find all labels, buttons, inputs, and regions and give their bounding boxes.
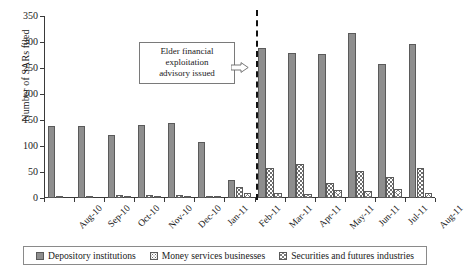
y-tick-label: 300	[10, 37, 38, 47]
x-tick-mark	[134, 198, 135, 202]
x-tick-label: Apr-11	[317, 203, 343, 229]
annotation-line-2: exploitation	[142, 57, 232, 68]
bar	[78, 126, 85, 198]
dotted-swatch	[150, 252, 158, 260]
x-tick-label: Nov-10	[167, 203, 195, 231]
bar	[409, 44, 416, 198]
x-tick-mark	[104, 198, 105, 202]
bar-group	[74, 16, 104, 198]
bar-group	[375, 16, 405, 198]
bar	[168, 123, 175, 198]
bar-group	[255, 16, 285, 198]
bar-group	[285, 16, 315, 198]
bar	[184, 196, 191, 198]
x-tick-mark	[194, 198, 195, 202]
bar	[378, 64, 385, 198]
bar	[326, 183, 333, 198]
annotation-arrow-icon	[231, 62, 249, 73]
legend-item[interactable]: Money services businesses	[150, 250, 265, 261]
bar	[296, 164, 303, 198]
legend-item[interactable]: Depository institutions	[36, 250, 136, 261]
bar	[236, 187, 243, 198]
bar	[206, 196, 213, 198]
bar	[176, 195, 183, 198]
bar-group	[405, 16, 435, 198]
bar-group	[44, 16, 74, 198]
bar	[124, 196, 131, 198]
y-tick-label: 50	[10, 167, 38, 177]
legend-item[interactable]: Securities and futures industries	[279, 250, 414, 261]
bar	[48, 126, 55, 198]
annotation-callout: Elder financial exploitation advisory is…	[139, 42, 235, 84]
bar	[304, 194, 311, 198]
bar	[334, 190, 341, 198]
x-tick-label: Feb-11	[256, 203, 282, 229]
y-tick-label: 150	[10, 115, 38, 125]
bar	[56, 196, 63, 198]
y-tick-label: 200	[10, 89, 38, 99]
x-tick-mark	[315, 198, 316, 202]
annotation-line-3: advisory issued	[142, 68, 232, 79]
y-tick-label: 250	[10, 63, 38, 73]
bar-group	[315, 16, 345, 198]
x-tick-label: Aug-10	[77, 203, 105, 231]
legend-label: Securities and futures industries	[291, 250, 414, 261]
x-tick-label: Mar-11	[287, 203, 314, 230]
x-tick-mark	[405, 198, 406, 202]
bar	[138, 125, 145, 198]
bar	[116, 195, 123, 198]
x-tick-label: Jul-11	[406, 203, 430, 227]
bar	[425, 193, 432, 198]
bar	[258, 48, 265, 198]
x-tick-label: Dec-10	[197, 203, 224, 230]
bar-group	[104, 16, 134, 198]
y-tick-label: 100	[10, 141, 38, 151]
bar	[146, 195, 153, 198]
bar	[386, 177, 393, 198]
x-tick-label: Sep-10	[106, 203, 132, 229]
x-tick-label: Oct-10	[136, 203, 162, 229]
bar	[198, 142, 205, 198]
bar	[108, 135, 115, 198]
bar	[356, 171, 363, 198]
legend-label: Money services businesses	[162, 250, 265, 261]
x-tick-mark	[345, 198, 346, 202]
event-divider-line	[256, 10, 258, 200]
x-tick-label: May-11	[347, 203, 375, 231]
bar	[228, 180, 235, 198]
chart-legend: Depository institutionsMoney services bu…	[23, 246, 427, 265]
x-tick-mark	[224, 198, 225, 202]
x-tick-mark	[164, 198, 165, 202]
bar	[348, 33, 355, 198]
y-tick-label: 350	[10, 11, 38, 21]
plot-area: 050100150200250300350	[44, 16, 435, 198]
bar	[318, 54, 325, 198]
x-tick-label: Jan-11	[226, 203, 251, 228]
bar	[266, 168, 273, 198]
x-tick-mark	[435, 198, 436, 202]
y-tick-label: 0	[10, 193, 38, 203]
x-tick-mark	[375, 198, 376, 202]
x-tick-label: Jun-11	[376, 203, 401, 228]
bar	[417, 168, 424, 198]
crosshatch-swatch	[279, 252, 287, 260]
bar	[86, 196, 93, 198]
bar	[154, 196, 161, 198]
legend-label: Depository institutions	[48, 250, 136, 261]
bar	[394, 189, 401, 198]
bar-group	[345, 16, 375, 198]
x-tick-label: Aug-11	[437, 203, 464, 230]
x-tick-mark	[285, 198, 286, 202]
bar	[214, 196, 221, 198]
bar	[364, 191, 371, 198]
solid-gray-swatch	[36, 252, 44, 260]
bar	[288, 53, 295, 198]
x-tick-mark	[74, 198, 75, 202]
bar	[274, 193, 281, 198]
x-tick-mark	[44, 198, 45, 202]
bar	[244, 193, 251, 198]
annotation-line-1: Elder financial	[142, 46, 232, 57]
